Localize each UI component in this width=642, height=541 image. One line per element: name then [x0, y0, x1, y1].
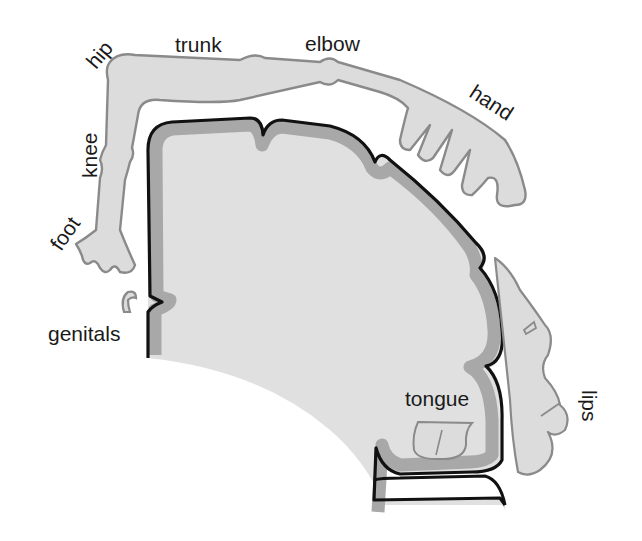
label-trunk: trunk [175, 33, 222, 56]
label-lips: lips [578, 390, 601, 422]
tongue-shape [414, 422, 473, 459]
label-elbow: elbow [305, 32, 361, 55]
label-knee: knee [78, 132, 101, 178]
homunculus-diagram: hip trunk elbow hand knee foot genitals … [0, 0, 642, 541]
label-genitals: genitals [48, 322, 120, 345]
label-tongue: tongue [405, 387, 469, 410]
genitals-shape [123, 292, 136, 312]
face-shape [495, 258, 568, 475]
